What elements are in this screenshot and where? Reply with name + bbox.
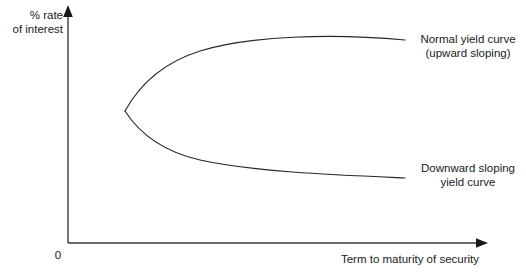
normal-yield-curve-label: Normal yield curve(upward sloping) (410, 32, 526, 60)
yield-curve-figure: % rateof interest Term to maturity of se… (0, 0, 526, 280)
normal-yield-curve-label-line-1: Normal yield curve (420, 33, 515, 45)
y-axis-title-line-2: of interest (13, 23, 64, 35)
y-axis-arrowhead-icon (63, 5, 73, 17)
normal-yield-curve-path (125, 36, 405, 111)
downward-yield-curve-label: Downward slopingyield curve (410, 161, 526, 189)
y-axis-title-line-1: % rate (30, 9, 63, 21)
x-axis-arrowhead-icon (476, 238, 488, 248)
normal-yield-curve-label-line-2: (upward sloping) (425, 47, 510, 59)
downward-yield-curve-path (125, 111, 405, 178)
downward-yield-curve-label-line-1: Downward sloping (421, 162, 515, 174)
origin-label: 0 (50, 248, 66, 262)
downward-yield-curve-label-line-2: yield curve (441, 176, 496, 188)
x-axis-title: Term to maturity of security (330, 252, 490, 266)
y-axis-title: % rateof interest (0, 8, 63, 36)
